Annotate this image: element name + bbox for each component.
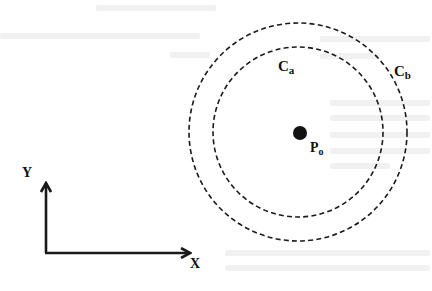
x-axis-label: X <box>190 256 200 271</box>
y-axis-label: Y <box>22 165 32 180</box>
label-ca: Ca <box>278 58 295 76</box>
label-cb: Cb <box>394 63 411 81</box>
diagram-canvas: Ca Cb Po Y X <box>0 0 432 291</box>
diagram-svg: Ca Cb Po Y X <box>0 0 432 291</box>
center-point-po <box>293 126 307 140</box>
label-po: Po <box>310 140 324 157</box>
